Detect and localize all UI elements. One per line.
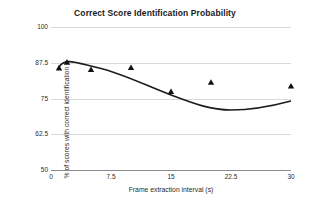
data-point-markers xyxy=(56,59,294,94)
y-tick-label: 100 xyxy=(18,23,48,30)
data-point-marker xyxy=(288,83,294,89)
x-axis-tick-labels: 0 7.5 15 22.5 30 xyxy=(0,173,310,185)
x-tick-label: 22.5 xyxy=(225,173,238,181)
plot-area: % of scores with correct identification xyxy=(51,27,291,170)
x-tick-label: 7.5 xyxy=(106,173,115,181)
x-axis-line xyxy=(51,170,291,171)
x-tick-label: 0 xyxy=(49,173,53,181)
trend-line xyxy=(59,62,291,110)
data-point-marker xyxy=(56,65,62,71)
chart-title: Correct Score Identification Probability xyxy=(0,8,310,18)
y-tick-label: 87.5 xyxy=(18,59,48,66)
data-point-marker xyxy=(168,88,174,94)
y-tick-label: 75 xyxy=(18,95,48,102)
y-axis-tick-labels: 100 87.5 75 62.5 50 xyxy=(18,20,48,178)
data-point-marker xyxy=(208,79,214,85)
x-tick-label: 30 xyxy=(287,173,294,181)
data-point-marker xyxy=(128,65,134,71)
y-tick-label: 62.5 xyxy=(18,130,48,137)
data-series-layer xyxy=(51,27,291,170)
x-tick-label: 15 xyxy=(167,173,174,181)
x-axis-title: Frame extraction interval (s) xyxy=(51,186,291,193)
y-tick-label: 50 xyxy=(18,166,48,173)
chart-container: Correct Score Identification Probability… xyxy=(0,0,310,206)
